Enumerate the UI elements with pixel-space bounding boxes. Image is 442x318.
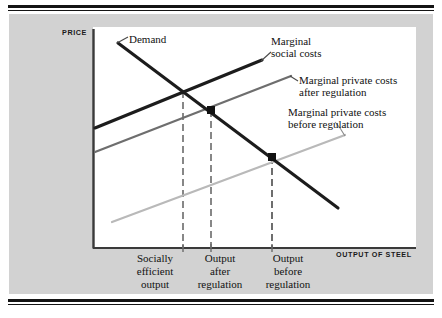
curve-label-demand: Demand (129, 33, 166, 45)
curve-label-mpc-before-line2: before regulation (288, 118, 386, 130)
y-axis-label: PRICE (62, 29, 87, 37)
x-category-output-after-regulation: Output after regulation (187, 252, 253, 291)
curve-label-mpc-before-regulation: Marginal private costs before regulation (288, 106, 386, 131)
x-category-socially-efficient-output: Socially efficient output (124, 252, 186, 291)
curve-label-mpc-after-line1: Marginal private costs (299, 74, 397, 86)
bottom-rule-thin (8, 304, 434, 305)
x-category-line3: regulation (187, 278, 253, 291)
x-category-line2: before (255, 265, 321, 278)
curve-label-mpc-after-regulation: Marginal private costs after regulation (299, 74, 397, 99)
curve-label-mpc-after-line2: after regulation (299, 86, 397, 98)
curve-marginal-social-costs (95, 60, 262, 128)
x-category-line2: efficient (124, 265, 186, 278)
x-category-line1: Socially (124, 252, 186, 265)
leader-line-marginal-social-costs (261, 52, 271, 61)
dashed-drop-lines (183, 91, 272, 248)
figure-container: PRICE OUTPUT OF STEEL Demand Marginal so… (0, 0, 442, 318)
x-category-output-before-regulation: Output before regulation (255, 252, 321, 291)
curve-label-marginal-social-costs: Marginal social costs (271, 35, 321, 60)
x-axis-label: OUTPUT OF STEEL (336, 251, 412, 259)
curve-label-msc-line2: social costs (271, 47, 321, 59)
marker-output-before-regulation (268, 153, 276, 161)
bottom-rule (8, 299, 434, 302)
leader-line-demand (117, 37, 128, 43)
curve-label-mpc-before-line1: Marginal private costs (288, 106, 386, 118)
x-category-line2: after (187, 265, 253, 278)
x-category-line3: output (124, 278, 186, 291)
x-category-line1: Output (255, 252, 321, 265)
curve-marginal-private-costs-before-regulation (112, 135, 345, 222)
curve-label-msc-line1: Marginal (271, 35, 321, 47)
marker-output-after-regulation (207, 106, 215, 114)
x-category-line1: Output (187, 252, 253, 265)
x-category-line3: regulation (255, 278, 321, 291)
leader-line-mpc-after-regulation (290, 76, 298, 81)
